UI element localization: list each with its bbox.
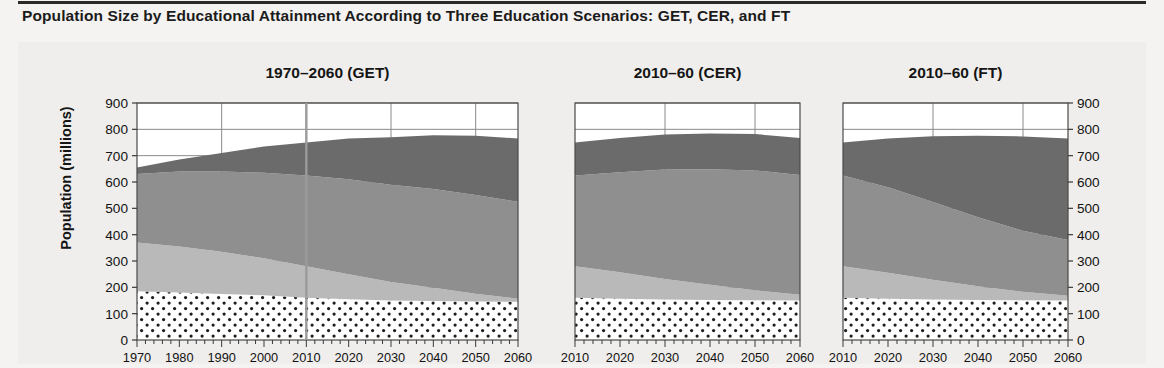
y-tick-label: 700	[1077, 149, 1100, 164]
panel-get: 0100200300400500600700800900197019801990…	[105, 96, 532, 364]
y-tick-label: 100	[1077, 307, 1100, 322]
x-tick-label: 2030	[919, 350, 947, 364]
x-tick-label: 2020	[606, 350, 634, 364]
y-tick-label: 700	[105, 149, 128, 164]
y-tick-label: 800	[105, 122, 128, 137]
x-tick-label: 2050	[461, 350, 489, 364]
y-tick-label: 900	[105, 96, 128, 111]
x-tick-label: 2050	[741, 350, 769, 364]
x-tick-label: 2040	[964, 350, 992, 364]
plot-surface: Population (millions) 1970–2060 (GET) 20…	[18, 42, 1146, 364]
x-tick-label: 2050	[1009, 350, 1037, 364]
x-tick-label: 1990	[207, 350, 235, 364]
y-tick-label: 100	[105, 307, 128, 322]
y-tick-label: 800	[1077, 122, 1100, 137]
x-tick-label: 2030	[377, 350, 405, 364]
header-rule	[18, 1, 1146, 4]
x-tick-label: 2040	[419, 350, 447, 364]
y-tick-label: 200	[1077, 280, 1100, 295]
y-tick-label: 500	[105, 201, 128, 216]
area-no-education	[843, 298, 1068, 340]
x-tick-label: 2060	[504, 350, 532, 364]
y-tick-label: 300	[105, 254, 128, 269]
panel-cer: 201020202030204020502060	[561, 103, 814, 364]
x-tick-label: 2020	[334, 350, 362, 364]
y-tick-label: 400	[105, 228, 128, 243]
figure-page: Population Size by Educational Attainmen…	[0, 0, 1164, 368]
y-tick-label: 0	[120, 333, 128, 348]
y-tick-label: 200	[105, 280, 128, 295]
y-tick-label: 600	[1077, 175, 1100, 190]
x-tick-label: 1980	[165, 350, 193, 364]
x-tick-label: 2010	[829, 350, 857, 364]
figure-title: Population Size by Educational Attainmen…	[22, 7, 1142, 25]
x-tick-label: 2000	[250, 350, 278, 364]
y-tick-label: 600	[105, 175, 128, 190]
x-tick-label: 2010	[561, 350, 589, 364]
y-tick-label: 500	[1077, 201, 1100, 216]
y-tick-label: 400	[1077, 228, 1100, 243]
x-tick-label: 2020	[874, 350, 902, 364]
y-tick-label: 300	[1077, 254, 1100, 269]
x-tick-label: 1970	[123, 350, 151, 364]
x-tick-label: 2030	[651, 350, 679, 364]
stacked-area-chart: 0100200300400500600700800900197019801990…	[18, 42, 1146, 364]
area-tertiary	[575, 134, 800, 176]
x-tick-label: 2040	[696, 350, 724, 364]
area-no-education	[575, 298, 800, 340]
panel-ft: 0100200300400500600700800900201020202030…	[829, 96, 1100, 364]
y-tick-label: 900	[1077, 96, 1100, 111]
y-tick-label: 0	[1077, 333, 1085, 348]
x-tick-label: 2010	[292, 350, 320, 364]
x-tick-label: 2060	[1054, 350, 1082, 364]
x-tick-label: 2060	[786, 350, 814, 364]
